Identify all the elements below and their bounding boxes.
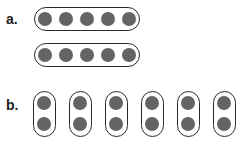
counter-dot xyxy=(109,96,123,110)
vertical-capsule-group xyxy=(141,91,164,137)
counter-dot xyxy=(101,12,115,26)
counter-dot xyxy=(109,117,123,131)
counter-dot xyxy=(181,96,195,110)
vertical-capsule-group xyxy=(213,91,236,137)
counter-dot xyxy=(122,12,136,26)
counter-dot xyxy=(38,48,52,62)
counter-dot xyxy=(73,96,87,110)
counter-dot xyxy=(59,48,73,62)
horizontal-capsule-group xyxy=(34,43,140,67)
vertical-capsule-group xyxy=(105,91,128,137)
counter-dot xyxy=(145,117,159,131)
counter-dot xyxy=(37,117,51,131)
counter-dot xyxy=(59,12,73,26)
vertical-capsule-group xyxy=(69,91,92,137)
part-a-label: a. xyxy=(6,12,18,26)
vertical-capsule-group xyxy=(33,91,56,137)
counter-dot xyxy=(80,12,94,26)
counter-dot xyxy=(73,117,87,131)
counter-dot xyxy=(181,117,195,131)
counter-dot xyxy=(37,96,51,110)
horizontal-capsule-group xyxy=(34,7,140,31)
counter-dot xyxy=(145,96,159,110)
vertical-capsule-group xyxy=(177,91,200,137)
counter-dot xyxy=(217,117,231,131)
counter-dot xyxy=(122,48,136,62)
counter-dot xyxy=(38,12,52,26)
counter-dot xyxy=(217,96,231,110)
counter-dot xyxy=(80,48,94,62)
counter-dot xyxy=(101,48,115,62)
part-b-label: b. xyxy=(6,98,18,112)
